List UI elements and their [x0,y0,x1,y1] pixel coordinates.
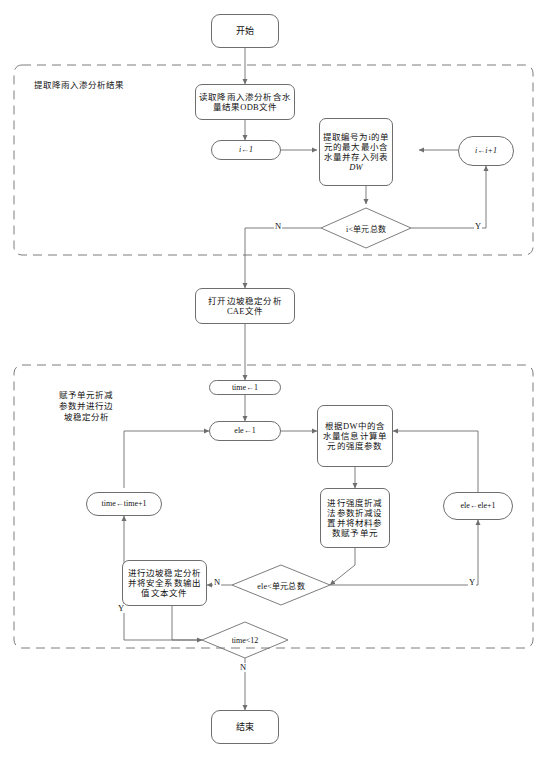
node-read-odb-line1: 读取降雨入渗分析含水 [199,92,291,102]
node-run-slope-line2: 并将安全系数输出 [128,578,202,588]
node-i-incr: i←i+1 [458,136,514,166]
edge-timeincr-to-eleinit [124,431,209,488]
node-srm-params-line4: 数赋予单元 [327,528,382,538]
node-ele-init: ele←1 [209,421,281,441]
node-time-init-label: time←1 [232,383,258,392]
node-run-slope-line1: 进行边坡稳定分析 [128,568,202,578]
edge-label-decision-i-no: N [274,222,282,231]
node-decision-i-label: i<单元总数 [321,208,411,248]
node-srm-params-line2: 法参数折减设 [327,508,382,518]
node-calc-strength: 根据DW中的含 水量信息计算单 元的强度参数 [317,405,393,467]
node-srm-params-line3: 置并将材料参 [327,518,382,528]
node-calc-strength-line2: 水量信息计算单 [323,431,387,441]
edge-label-decision-time-yes: Y [117,604,125,613]
node-start-label: 开始 [236,26,254,37]
node-ele-init-label: ele←1 [234,426,255,435]
node-decision-ele: ele<单元总数 [232,565,330,605]
node-extract-dw: 提取编号为i的单 元的最大最小含 水量并存入列表 DW [319,118,393,186]
node-extract-dw-line2: 元的最大最小含 [323,142,390,152]
node-srm-params: 进行强度折减 法参数折减设 置并将材料参 数赋予单元 [320,488,390,548]
edge-label-decision-time-no: N [239,663,247,672]
group-reduction-label-line1: 赋予单元折减 [36,390,136,401]
node-i-incr-label: i←i+1 [475,146,497,155]
node-i-init: i←1 [211,140,281,160]
node-ele-incr: ele←ele+1 [443,492,513,520]
edge-label-decision-ele-no: N [213,578,221,587]
edge-slope-to-decision-time [172,606,202,640]
node-srm-params-line1: 进行强度折减 [327,498,382,508]
node-read-odb-line2: 量结果ODB文件 [199,102,291,112]
node-i-init-label: i←1 [239,145,253,154]
node-decision-time: time<12 [202,622,288,658]
edge-srm-to-decision-ele [330,548,355,585]
node-time-incr: time←time+1 [86,492,162,516]
node-calc-strength-line3: 元的强度参数 [323,441,387,451]
node-start: 开始 [211,14,279,48]
node-run-slope: 进行边坡稳定分析 并将安全系数输出 值文本文件 [122,560,207,606]
node-open-cae: 打开边坡稳定分析 CAE文件 [195,288,295,324]
node-time-init: time←1 [209,380,281,395]
edge-decision-i-no [245,228,321,288]
node-calc-strength-line1: 根据DW中的含 [323,421,387,431]
node-open-cae-line1: 打开边坡稳定分析 [208,296,282,306]
edge-eleincr-to-calc [393,431,478,492]
flowchart-canvas: 开始 读取降雨入渗分析含水 量结果ODB文件 i←1 提取编号为i的单 元的最大… [0,0,547,765]
group-reduction-label-line3: 坡稳定分析 [36,412,136,423]
node-end-label: 结束 [236,722,254,733]
edge-label-decision-ele-yes: Y [468,578,476,587]
edge-decision-i-yes [411,166,486,228]
group-extract-label: 提取降雨入渗分析结果 [34,80,124,91]
node-run-slope-line3: 值文本文件 [128,588,202,598]
node-ele-incr-label: ele←ele+1 [460,501,495,510]
node-extract-dw-line3: 水量并存入列表 [323,152,390,162]
group-reduction-label: 赋予单元折减 参数并进行边 坡稳定分析 [36,390,136,423]
edge-label-decision-i-yes: Y [474,222,482,231]
node-extract-dw-line4: DW [323,162,390,172]
node-decision-ele-label: ele<单元总数 [232,565,330,605]
node-end: 结束 [211,710,279,744]
node-read-odb: 读取降雨入渗分析含水 量结果ODB文件 [195,84,295,120]
node-time-incr-label: time←time+1 [102,499,147,508]
node-open-cae-line2: CAE文件 [208,306,282,316]
node-decision-i: i<单元总数 [321,208,411,248]
node-decision-time-label: time<12 [202,622,288,658]
node-extract-dw-line1: 提取编号为i的单 [323,132,390,142]
group-reduction-label-line2: 参数并进行边 [36,401,136,412]
